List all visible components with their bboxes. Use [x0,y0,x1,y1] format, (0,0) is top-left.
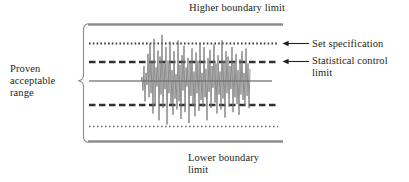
higher-boundary-limit-label: Higher boundary limit [189,2,285,14]
statistical-control-limit-label: Statistical control limit [312,55,407,79]
proven-acceptable-range-label: Proven acceptable range [10,63,72,98]
set-specification-arrow [283,41,310,47]
process-signal-trace [141,35,250,125]
control-chart-figure: Higher boundary limit Lower boundary lim… [0,0,409,182]
set-specification-label: Set specification [312,38,383,50]
statistical-control-limit-arrow [283,59,310,65]
proven-acceptable-range-bracket [79,24,89,143]
lower-boundary-limit-label: Lower boundary limit [188,152,259,175]
